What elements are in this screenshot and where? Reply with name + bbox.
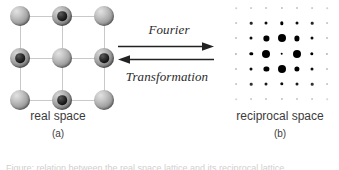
diffraction-spot — [278, 65, 286, 73]
lattice-atom-core — [57, 95, 67, 105]
diffraction-spot — [326, 37, 328, 39]
caption-reciprocal-space-title: reciprocal space — [222, 108, 338, 124]
diffraction-spot — [278, 34, 286, 42]
diffraction-spot — [326, 7, 328, 9]
arrow-right — [118, 41, 214, 52]
diffraction-spot — [235, 22, 237, 24]
diffraction-spot — [250, 83, 253, 86]
diffraction-spot — [280, 52, 283, 55]
diffraction-spot — [311, 67, 314, 70]
lattice-atom — [10, 6, 30, 26]
diffraction-spot — [295, 22, 298, 25]
diffraction-spot — [280, 82, 283, 85]
figure-canvas: Fourier Transformation real space (a) re… — [0, 0, 339, 170]
diffraction-spot — [265, 98, 267, 100]
diffraction-spot — [235, 98, 237, 100]
diffraction-spot — [250, 37, 253, 40]
diffraction-spot — [250, 98, 252, 100]
diffraction-spot — [281, 7, 283, 9]
diffraction-spot — [311, 98, 313, 100]
diffraction-spot — [294, 36, 299, 41]
diffraction-spot — [311, 83, 314, 86]
diffraction-spot — [265, 7, 267, 9]
diffraction-spot — [265, 83, 268, 86]
diffraction-spot — [265, 22, 268, 25]
diffraction-spot — [280, 21, 283, 24]
diffraction-spot — [326, 83, 328, 85]
reciprocal-space-lattice — [232, 4, 332, 104]
diffraction-spot — [326, 22, 328, 24]
lattice-atom-with-core — [52, 90, 72, 110]
diffraction-spot — [293, 50, 301, 58]
clipped-figure-caption: Figure: relation between the real space … — [6, 163, 334, 170]
diffraction-spot — [296, 7, 298, 9]
lattice-atom — [94, 6, 114, 26]
lattice-atom-with-core — [10, 48, 30, 68]
diffraction-spot — [264, 66, 269, 71]
lattice-atom-core — [15, 53, 25, 63]
diffraction-spot — [295, 83, 298, 86]
diffraction-spot — [250, 67, 253, 70]
diffraction-spot — [249, 52, 252, 55]
diffraction-spot — [296, 98, 298, 100]
diffraction-spot — [326, 68, 328, 70]
diffraction-spot — [294, 66, 299, 71]
caption-real-space: real space (a) — [8, 108, 108, 141]
diffraction-spot — [235, 7, 237, 9]
caption-real-space-title: real space — [8, 108, 108, 124]
lattice-atom — [52, 48, 72, 68]
diffraction-spot — [310, 52, 313, 55]
fourier-label: Fourier — [114, 22, 224, 38]
diffraction-spot — [235, 83, 237, 85]
diffraction-spot — [262, 50, 270, 58]
fourier-transformation-group: Fourier Transformation — [112, 22, 222, 88]
caption-reciprocal-space: reciprocal space (b) — [222, 108, 338, 141]
real-space-lattice — [8, 4, 108, 104]
diffraction-spot — [264, 36, 269, 41]
diffraction-spot — [326, 53, 328, 55]
diffraction-spot — [326, 98, 328, 100]
diffraction-spot — [311, 22, 314, 25]
diffraction-spot — [235, 37, 237, 39]
diffraction-spot — [235, 53, 237, 55]
arrow-left — [118, 54, 214, 65]
lattice-atom-core — [57, 11, 67, 21]
lattice-atom — [10, 90, 30, 110]
diffraction-spot — [250, 7, 252, 9]
diffraction-spot — [311, 37, 314, 40]
lattice-atom-with-core — [94, 48, 114, 68]
lattice-atom-core — [99, 53, 109, 63]
lattice-atom — [94, 90, 114, 110]
lattice-atom-with-core — [52, 6, 72, 26]
diffraction-spot — [250, 22, 253, 25]
transformation-label: Transformation — [112, 69, 222, 85]
diffraction-spot — [311, 7, 313, 9]
caption-reciprocal-space-tag: (b) — [222, 126, 338, 141]
caption-real-space-tag: (a) — [8, 126, 108, 141]
diffraction-spot — [235, 68, 237, 70]
diffraction-spot — [281, 98, 283, 100]
